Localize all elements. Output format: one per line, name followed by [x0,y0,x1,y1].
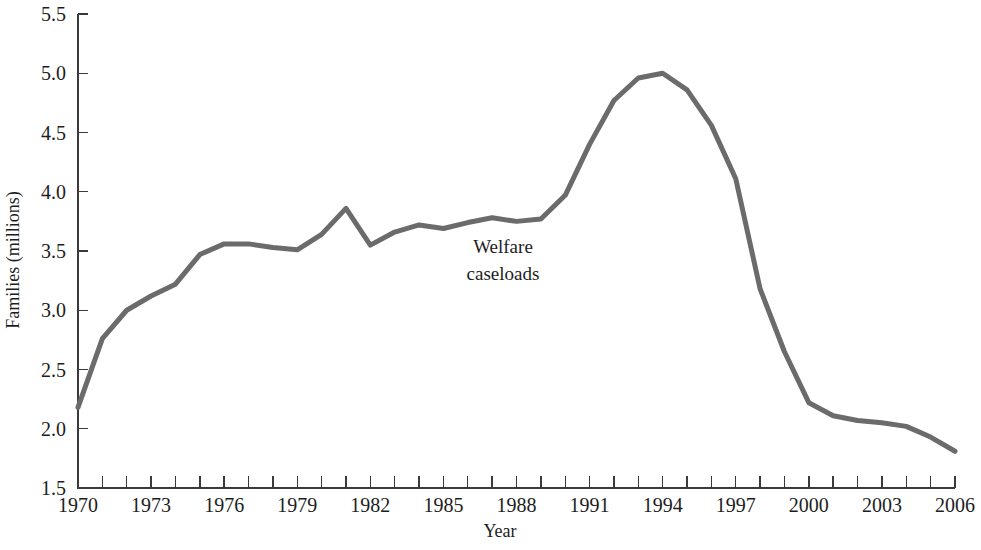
x-tick-labels: 1970197319761979198219851988199119941997… [58,494,975,516]
y-tick-label: 4.0 [41,181,66,203]
x-tick-label: 1997 [716,494,756,516]
x-axis-title: Year [483,521,516,541]
welfare-caseloads-chart: 1.52.02.53.03.54.04.55.05.5 197019731976… [0,0,981,550]
y-tick-labels: 1.52.02.53.03.54.04.55.05.5 [41,3,66,499]
chart-plot-area: 1.52.02.53.03.54.04.55.05.5 197019731976… [0,0,981,550]
y-axis-title: Families (millions) [3,191,24,329]
x-tick-label: 1973 [131,494,171,516]
x-tick-label: 1985 [423,494,463,516]
y-tick-label: 4.5 [41,122,66,144]
series-annotation-line2: caseloads [467,263,540,284]
x-tick-label: 1976 [204,494,244,516]
x-tick-label: 1979 [277,494,317,516]
x-tick-label: 1982 [350,494,390,516]
y-tick-label: 5.5 [41,3,66,25]
x-tick-label: 2000 [789,494,829,516]
y-tick-label: 2.5 [41,359,66,381]
y-tick-label: 2.0 [41,418,66,440]
y-tick-label: 3.0 [41,299,66,321]
y-tick-label: 5.0 [41,62,66,84]
x-tick-label: 1991 [570,494,610,516]
x-tick-label: 2006 [935,494,975,516]
series-annotation-line1: Welfare [473,236,533,257]
y-tick-label: 3.5 [41,240,66,262]
x-tick-label: 1970 [58,494,98,516]
x-tick-label: 1994 [643,494,683,516]
x-tick-label: 2003 [862,494,902,516]
x-tick-label: 1988 [497,494,537,516]
